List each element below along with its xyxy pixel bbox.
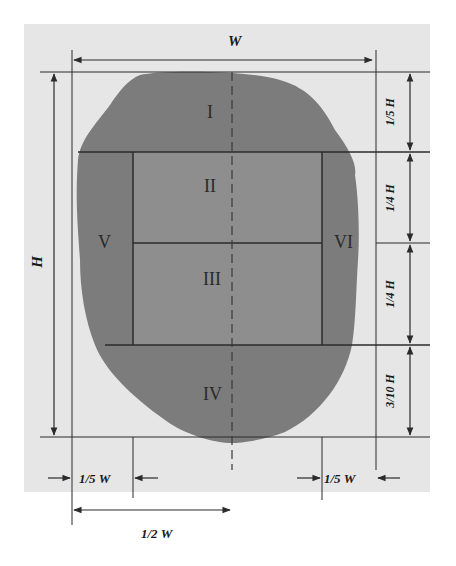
region-label-I: I — [207, 102, 213, 122]
height-label: H — [29, 255, 45, 269]
seg-label-3: 1/4 H — [383, 280, 397, 308]
half-width-label: 1/2 W — [141, 526, 174, 541]
left-offset-label: 1/5 W — [79, 471, 112, 486]
seg-label-2: 1/4 H — [383, 184, 397, 212]
region-label-IV: IV — [203, 384, 222, 404]
right-offset-label: 1/5 W — [324, 471, 357, 486]
seg-label-4: 3/10 H — [383, 374, 397, 409]
region-label-II: II — [204, 176, 216, 196]
seg-label-1: 1/5 H — [383, 98, 397, 126]
region-diagram: W H 1/5 H 1/4 H 1/4 H 3/10 H 1/5 W 1/5 W… — [0, 0, 456, 566]
center-region — [133, 152, 322, 345]
region-label-VI: VI — [334, 232, 353, 252]
region-label-III: III — [203, 269, 221, 289]
region-label-V: V — [98, 232, 111, 252]
width-label: W — [228, 33, 243, 49]
